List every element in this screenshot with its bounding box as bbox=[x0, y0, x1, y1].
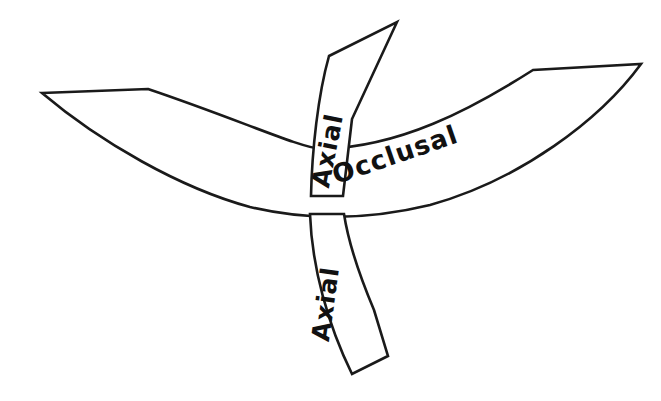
tooth-surface-diagram: Occlusal Axial Axial bbox=[0, 0, 661, 401]
diagram-root: Occlusal Axial Axial bbox=[0, 0, 661, 401]
